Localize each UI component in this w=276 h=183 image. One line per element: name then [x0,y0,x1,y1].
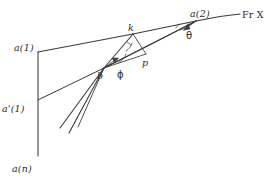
geometry-diagram [0,0,276,183]
ray-b-to-a2 [104,21,196,68]
label-a1-prime: a'(1) [2,103,25,114]
label-a2: a(2) [190,8,210,19]
line-aprime-to-b [38,68,104,100]
line-a1-to-k [38,34,133,52]
label-phi: ϕ [117,69,124,80]
label-an: a(n) [12,163,32,174]
label-k: k [128,22,134,33]
label-a1: a(1) [14,42,34,53]
label-fr-x: Fr X [242,9,264,20]
label-p: p [142,57,148,68]
tick-mark-k [127,42,131,45]
phi-arrowhead [112,58,118,63]
phi-arc-inner [126,43,132,51]
segment-k-to-p [133,34,146,54]
label-b: b [97,70,103,81]
label-theta: θ [186,30,192,41]
